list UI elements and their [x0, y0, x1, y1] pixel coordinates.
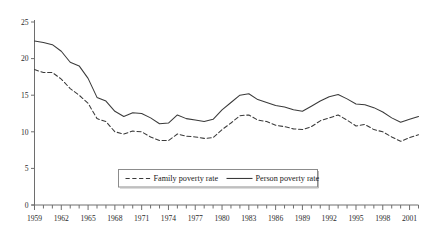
y-axis-tick-label: 0	[25, 201, 29, 210]
x-axis-tick-label: 1959	[27, 214, 42, 223]
x-axis-tick-label: 1998	[375, 214, 390, 223]
x-axis-tick-label: 1983	[241, 214, 256, 223]
x-axis-tick-label: 1962	[54, 214, 69, 223]
x-axis-tick-label: 1995	[348, 214, 363, 223]
legend-label-person-poverty-rate: Person poverty rate	[256, 174, 320, 183]
x-axis-tick-label: 1977	[188, 214, 203, 223]
chart-canvas: 0510152025195919621965196819711974197719…	[0, 0, 428, 240]
y-axis-tick-label: 5	[25, 164, 29, 173]
x-axis-tick-label: 1992	[322, 214, 337, 223]
legend-label-family-poverty-rate: Family poverty rate	[154, 174, 219, 183]
y-axis-tick-label: 10	[21, 128, 29, 137]
x-axis-tick-label: 1968	[107, 214, 122, 223]
y-axis-tick-label: 25	[21, 18, 29, 27]
series-line-family-poverty-rate	[35, 70, 419, 142]
x-axis-tick-label: 1986	[268, 214, 283, 223]
y-axis-tick-label: 15	[21, 91, 29, 100]
y-axis-tick-label: 20	[21, 54, 29, 63]
x-axis-tick-label: 1971	[134, 214, 149, 223]
x-axis-tick-label: 1974	[161, 214, 176, 223]
x-axis-tick-label: 1980	[214, 214, 229, 223]
x-axis-tick-label: 1989	[295, 214, 310, 223]
poverty-rate-chart: 0510152025195919621965196819711974197719…	[0, 0, 428, 240]
series-line-person-poverty-rate	[35, 41, 419, 124]
x-axis-tick-label: 1965	[80, 214, 95, 223]
x-axis-tick-label: 2001	[402, 214, 417, 223]
